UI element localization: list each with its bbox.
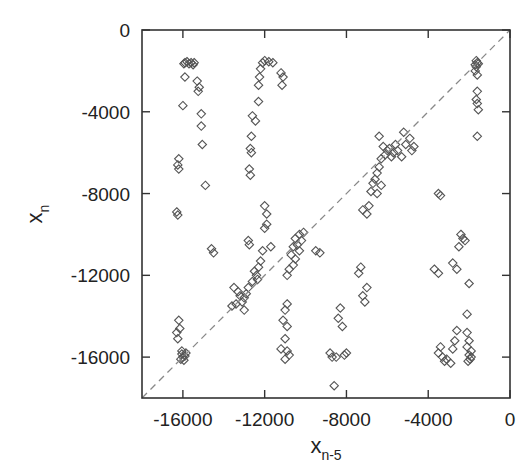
data-point-diamond (336, 304, 344, 312)
data-point-diamond (375, 132, 383, 140)
x-tick-label: 0 (505, 409, 516, 430)
y-axis-label: xn (22, 205, 52, 224)
data-point-diamond (279, 73, 287, 81)
data-point-diamond (179, 101, 187, 109)
data-point-diamond (248, 112, 256, 120)
data-point-diamond (267, 243, 275, 251)
data-point-diamond (473, 87, 481, 95)
data-point-diamond (207, 245, 215, 253)
data-point-diamond (234, 287, 242, 295)
data-point-diamond (258, 247, 266, 255)
data-point-diamond (363, 283, 371, 291)
data-point-diamond (316, 249, 324, 257)
data-point-diamond (245, 240, 253, 248)
data-point-diamond (281, 335, 289, 343)
x-axis-label: xn-5 (310, 433, 341, 463)
y-tick-label: -4000 (81, 102, 130, 123)
data-point-diamond (299, 228, 307, 236)
y-axis-ticks: 0-4000-8000-12000-16000 (71, 20, 510, 368)
data-point-diamond (201, 181, 209, 189)
data-point-diamond (197, 110, 205, 118)
data-point-diamond (285, 351, 293, 359)
data-point-diamond (451, 337, 459, 345)
data-point-diamond (472, 95, 480, 103)
scatter-chart: -16000-12000-8000-40000 0-4000-8000-1200… (0, 0, 530, 474)
data-point-diamond (363, 210, 371, 218)
data-point-diamond (278, 81, 286, 89)
data-point-diamond (399, 128, 407, 136)
y-tick-label: -12000 (71, 265, 130, 286)
x-tick-label: -8000 (322, 409, 371, 430)
data-point-diamond (250, 267, 258, 275)
data-point-diamond (230, 283, 238, 291)
data-point-diamond (269, 59, 277, 67)
x-tick-label: -12000 (235, 409, 294, 430)
data-point-diamond (449, 345, 457, 353)
y-tick-label: -8000 (81, 184, 130, 205)
x-tick-label: -4000 (404, 409, 453, 430)
data-point-diamond (434, 269, 442, 277)
data-points (173, 56, 483, 389)
data-point-diamond (334, 314, 342, 322)
data-point-diamond (473, 71, 481, 79)
x-tick-label: -16000 (153, 409, 212, 430)
data-point-diamond (175, 316, 183, 324)
data-point-diamond (410, 142, 418, 150)
data-point-diamond (247, 148, 255, 156)
data-point-diamond (281, 355, 289, 363)
data-point-diamond (277, 69, 285, 77)
data-point-diamond (312, 247, 320, 255)
data-point-diamond (247, 132, 255, 140)
data-point-diamond (254, 97, 262, 105)
data-point-diamond (263, 210, 271, 218)
data-point-diamond (455, 243, 463, 251)
data-point-diamond (194, 87, 202, 95)
data-point-diamond (473, 132, 481, 140)
data-point-diamond (255, 73, 263, 81)
data-point-diamond (465, 279, 473, 287)
data-point-diamond (175, 165, 183, 173)
data-point-diamond (254, 81, 262, 89)
y-tick-label: 0 (119, 20, 130, 41)
data-point-diamond (467, 347, 475, 355)
data-point-diamond (377, 181, 385, 189)
data-point-diamond (246, 144, 254, 152)
data-point-diamond (263, 220, 271, 228)
data-point-diamond (369, 179, 377, 187)
data-point-diamond (430, 265, 438, 273)
data-point-diamond (181, 73, 189, 81)
data-point-diamond (463, 328, 471, 336)
data-point-diamond (338, 322, 346, 330)
data-point-diamond (438, 353, 446, 361)
data-point-diamond (209, 249, 217, 257)
data-point-diamond (260, 224, 268, 232)
data-point-diamond (408, 146, 416, 154)
data-point-diamond (240, 306, 248, 314)
data-point-diamond (463, 310, 471, 318)
data-point-diamond (198, 140, 206, 148)
y-tick-label: -16000 (71, 347, 130, 368)
data-point-diamond (260, 202, 268, 210)
data-point-diamond (453, 326, 461, 334)
data-point-diamond (330, 382, 338, 390)
data-point-diamond (251, 117, 259, 125)
data-point-diamond (244, 236, 252, 244)
data-point-diamond (197, 122, 205, 130)
